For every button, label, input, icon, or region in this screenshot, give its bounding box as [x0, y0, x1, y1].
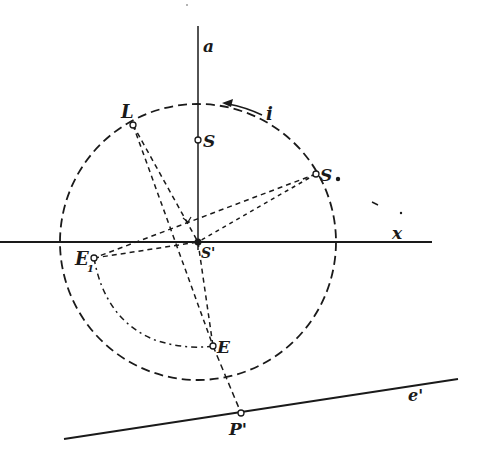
label-S: S — [203, 131, 215, 151]
label-L: L — [120, 101, 134, 122]
stray-dash — [372, 202, 378, 205]
label-a: a — [203, 36, 214, 56]
label-S-dot: S — [320, 165, 332, 185]
point-S-dot — [313, 171, 319, 177]
rotation-arrow-icon — [228, 104, 262, 115]
geometry-diagram: a i L S S x S' E 1 E P' e' — [0, 0, 480, 468]
point-S — [195, 137, 201, 143]
label-E: E — [216, 337, 231, 357]
line-sdot-center — [198, 174, 316, 242]
point-E — [210, 343, 216, 349]
label-i: i — [266, 103, 273, 124]
sdot-marker — [336, 177, 340, 181]
label-P-prime: P' — [228, 419, 247, 439]
point-E1 — [91, 255, 97, 261]
label-E1: E 1 — [74, 248, 94, 274]
right-angle-mark — [183, 217, 191, 222]
label-x: x — [391, 223, 403, 243]
line-l-e-outer — [133, 125, 213, 346]
point-L — [130, 122, 136, 128]
line-e-prime — [64, 379, 458, 439]
label-S-prime: S' — [201, 245, 215, 261]
line-e1-sprime — [94, 242, 198, 258]
svg-text:1: 1 — [87, 263, 94, 274]
arc-e1-e — [94, 258, 213, 347]
label-e-prime: e' — [408, 386, 423, 405]
point-P-prime — [238, 410, 244, 416]
stray-dot — [400, 212, 402, 214]
speck — [186, 4, 188, 6]
line-l-center — [133, 125, 198, 242]
